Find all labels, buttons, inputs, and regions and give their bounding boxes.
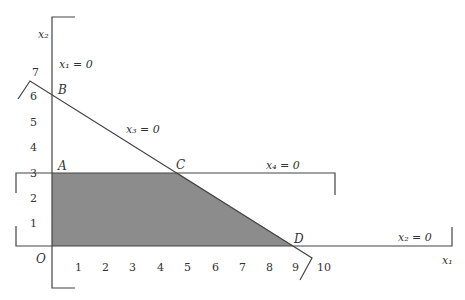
lp-diagram: x₂ x₁ O 1 2 3 4 5 6 7 8 9 10 1 2 3 4 5 6… [0,0,465,300]
y-tick: 7 [32,66,39,79]
origin-label: O [36,252,46,266]
y-tick: 6 [30,90,37,103]
x-tick-labels: 1 2 3 4 5 6 7 8 9 10 [75,261,331,274]
x-tick: 4 [157,261,164,274]
x1-constraint-label: x₁ = 0 [59,58,93,71]
y-tick: 3 [30,167,37,180]
point-a-label: A [57,159,67,173]
x-tick: 2 [102,261,109,274]
diagram-canvas: x₂ x₁ O 1 2 3 4 5 6 7 8 9 10 1 2 3 4 5 6… [0,0,465,300]
y-tick-labels: 1 2 3 4 5 6 7 [30,66,39,230]
x2-constraint-label: x₂ = 0 [398,231,432,244]
y-tick: 4 [30,141,37,154]
point-c-label: C [176,158,185,172]
y-tick: 2 [30,192,37,205]
x-tick: 8 [266,261,273,274]
x-tick: 1 [75,261,82,274]
feasible-region [52,173,293,246]
y-tick: 5 [30,116,37,129]
x-tick: 10 [317,261,331,274]
x-tick: 7 [239,261,246,274]
x-tick: 3 [129,261,136,274]
x4-constraint-label: x₄ = 0 [266,159,300,172]
x-tick: 9 [292,261,299,274]
point-d-label: D [293,232,304,246]
point-b-label: B [57,83,67,97]
x-tick: 6 [212,261,219,274]
x-tick: 5 [184,261,191,274]
x3-constraint-label: x₃ = 0 [126,123,160,136]
x-axis-label: x₁ [442,254,453,267]
y-axis-label: x₂ [38,28,49,41]
y-tick: 1 [30,217,37,230]
